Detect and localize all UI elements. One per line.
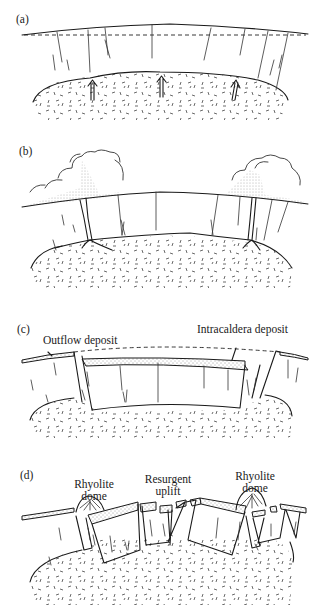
panel-d: (d) Rhyolite dome Resurgent uplift Rhyol… [0, 440, 331, 608]
diagram-eruption-columns [0, 140, 331, 290]
diagram-caldera-collapse [0, 290, 331, 440]
panel-a: (a) [0, 0, 331, 140]
diagram-resurgence-domes [0, 440, 331, 608]
panel-b: (b) [0, 140, 331, 290]
panel-c: (c) Outflow deposit Intracaldera deposit [0, 290, 331, 440]
diagram-magma-chamber-rising [0, 0, 331, 140]
